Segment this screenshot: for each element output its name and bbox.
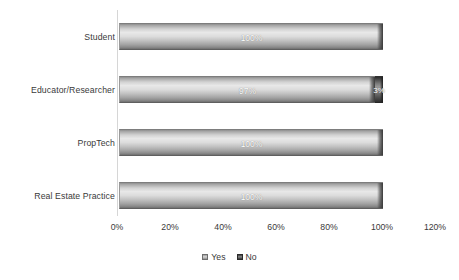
legend-label-yes: Yes — [211, 252, 225, 262]
bar-end-cap-icon — [377, 130, 383, 155]
bar-wrap-proptech: 100% — [119, 129, 383, 156]
bar-end-cap-icon — [377, 183, 383, 208]
legend-swatch-no-icon — [237, 254, 243, 260]
data-label-yes-real-estate-practice: 100% — [120, 183, 383, 210]
bar-wrap-real-estate-practice: 100% — [119, 182, 383, 209]
xtick-label-20: 20% — [147, 222, 193, 232]
bar-segment-yes-educator-researcher[interactable]: 97% — [119, 76, 375, 103]
category-axis-line — [117, 10, 118, 216]
bar-segment-no-educator-researcher[interactable]: 3% — [375, 76, 383, 103]
bar-segment-yes-real-estate-practice[interactable]: 100% — [119, 182, 383, 209]
category-label-proptech: PropTech — [3, 138, 115, 148]
bar-wrap-educator-researcher: 97% 3% — [119, 76, 383, 103]
xtick-label-40: 40% — [200, 222, 246, 232]
legend-swatch-yes-icon — [202, 254, 208, 260]
legend-label-no: No — [246, 252, 257, 262]
xtick-label-80: 80% — [306, 222, 352, 232]
bar-end-cap-icon — [380, 77, 383, 102]
bar-row-educator-researcher: 97% 3% — [119, 76, 383, 103]
bar-segment-yes-student[interactable]: 100% — [119, 23, 383, 50]
xtick-label-60: 60% — [253, 222, 299, 232]
chart-legend: Yes No — [0, 252, 459, 262]
bar-end-cap-icon — [377, 24, 383, 49]
horizontal-stacked-bar-chart: Student Educator/Researcher PropTech Rea… — [0, 0, 459, 280]
bar-row-real-estate-practice: 100% — [119, 182, 383, 209]
bar-segment-yes-proptech[interactable]: 100% — [119, 129, 383, 156]
category-label-real-estate-practice: Real Estate Practice — [3, 191, 115, 201]
category-label-educator-researcher: Educator/Researcher — [3, 85, 115, 95]
category-label-student: Student — [3, 32, 115, 42]
xtick-label-100: 100% — [359, 222, 405, 232]
data-label-yes-proptech: 100% — [120, 130, 383, 157]
xtick-label-120: 120% — [412, 222, 458, 232]
bar-row-proptech: 100% — [119, 129, 383, 156]
data-label-yes-educator-researcher: 97% — [120, 77, 375, 104]
data-label-yes-student: 100% — [120, 24, 383, 51]
xtick-label-0: 0% — [94, 222, 140, 232]
bar-row-student: 100% — [119, 23, 383, 50]
legend-item-yes[interactable]: Yes — [202, 252, 225, 262]
legend-item-no[interactable]: No — [237, 252, 257, 262]
bar-wrap-student: 100% — [119, 23, 383, 50]
